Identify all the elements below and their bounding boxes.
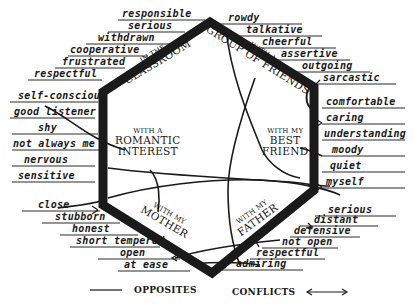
trait-classroom-respectful: respectful xyxy=(34,69,97,79)
legend-opposites-label: OPPOSITES xyxy=(134,285,197,295)
trait-romantic-shy: shy xyxy=(38,123,57,133)
trait-mother-stubborn: stubborn xyxy=(55,212,106,222)
trait-classroom-cooperative: cooperative xyxy=(70,45,140,55)
trait-romantic-not-always-me: not always me xyxy=(13,139,95,149)
trait-best-friend-quiet: quiet xyxy=(330,161,362,171)
trait-romantic-self-conscious: self-conscious xyxy=(18,91,107,101)
personality-hexagon-diagram: IN THE CLASSROOM WITH A GROUP OF FRIENDS… xyxy=(0,0,413,308)
trait-romantic-sensitive: sensitive xyxy=(18,171,75,181)
trait-romantic-nervous: nervous xyxy=(24,155,68,165)
trait-father-distant: distant xyxy=(314,215,358,225)
trait-best-friend-understanding: understanding xyxy=(324,129,406,139)
trait-mother-short-tempered: short tempered xyxy=(76,236,165,246)
trait-mother-honest: honest xyxy=(72,224,110,234)
trait-friends-sarcastic: sarcastic xyxy=(323,73,380,83)
trait-classroom-serious: serious xyxy=(128,21,172,31)
trait-friends-rowdy: rowdy xyxy=(228,13,260,23)
trait-mother-at-ease: at ease xyxy=(124,260,168,270)
trait-classroom-responsible: responsible xyxy=(122,9,192,19)
trait-friends-cheerful: cheerful xyxy=(262,37,313,47)
trait-father-defensive: defensive xyxy=(294,226,351,236)
trait-classroom-frustrated: frustrated xyxy=(62,57,125,67)
trait-best-friend-myself: myself xyxy=(326,177,364,187)
trait-mother-close: close xyxy=(38,200,70,210)
trait-best-friend-comfortable: comfortable xyxy=(326,97,396,107)
trait-friends-outgoing: outgoing xyxy=(302,61,353,71)
context-best-friend-line2: BEST xyxy=(262,135,308,146)
trait-romantic-good-listener: good listener xyxy=(14,107,96,117)
trait-father-respectful: respectful xyxy=(256,248,319,258)
trait-friends-talkative: talkative xyxy=(246,25,303,35)
trait-friends-assertive: assertive xyxy=(281,49,338,59)
trait-best-friend-moody: moody xyxy=(332,145,364,155)
trait-best-friend-caring: caring xyxy=(326,113,364,123)
context-label-romantic: WITH A ROMANTIC INTEREST xyxy=(115,128,181,156)
trait-father-not-open: not open xyxy=(282,237,333,247)
context-romantic-line2: ROMANTIC xyxy=(115,135,181,146)
context-best-friend-line3: FRIEND xyxy=(262,146,308,157)
context-romantic-line3: INTEREST xyxy=(115,146,181,157)
trait-mother-open: open xyxy=(120,248,145,258)
trait-father-admiring: admiring xyxy=(236,259,287,269)
trait-classroom-withdrawn: withdrawn xyxy=(98,33,155,43)
conflicts-legend-arrow xyxy=(307,289,347,295)
context-label-best-friend: WITH MY BEST FRIEND xyxy=(262,128,308,156)
legend-conflicts-label: CONFLICTS xyxy=(232,287,295,297)
